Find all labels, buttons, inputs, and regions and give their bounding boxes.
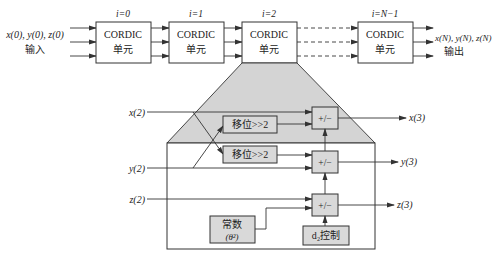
shift-2-label: 移位>>2	[232, 148, 268, 160]
input-x2-label: x(2)	[128, 107, 146, 119]
cordic-stage-1: i=1 CORDIC 单元	[169, 9, 224, 63]
input-label: x(0), y(0), z(0)	[5, 29, 64, 41]
stage-subtitle: 单元	[113, 44, 133, 55]
output-z3-label: z(3)	[396, 199, 413, 211]
output-arrows	[413, 28, 433, 56]
cordic-stage-0: i=0 CORDIC 单元	[96, 9, 151, 63]
stage-title: CORDIC	[177, 29, 215, 40]
cordic-stage-n-minus-1: i=N−1 CORDIC 单元	[358, 9, 413, 63]
stage-index-label: i=0	[116, 9, 130, 19]
output-caption: 输出	[444, 45, 464, 57]
input-arrows	[70, 28, 96, 56]
shift-1-label: 移位>>2	[232, 118, 268, 130]
cordic-stage-2: i=2 CORDIC 单元	[242, 9, 297, 63]
shift-box-1: 移位>>2	[223, 116, 277, 133]
stage-index-label: i=1	[189, 9, 203, 19]
stage-0-to-1-arrows	[151, 28, 169, 56]
stage-2-to-n-dashed-arrows	[297, 28, 358, 56]
d2-control-label: d₂控制	[312, 229, 341, 241]
stage-title: CORDIC	[104, 29, 142, 40]
constant-box: 常数 (θ²)	[210, 216, 255, 243]
stage-subtitle: 单元	[186, 44, 206, 55]
input-z2-label: z(2)	[128, 194, 145, 206]
stage-subtitle: 单元	[375, 44, 395, 55]
addsub-x: +/−	[312, 107, 338, 129]
stage-index-label: i=N−1	[372, 9, 399, 19]
addsub-y-label: +/−	[318, 158, 331, 168]
d2-control-box: d₂控制	[303, 226, 349, 245]
addsub-z-label: +/−	[318, 201, 331, 211]
cordic-pipeline-diagram: x(0), y(0), z(0) 输入 i=0 CORDIC 单元 i=1 CO…	[0, 0, 503, 259]
input-y2-label: y(2)	[128, 163, 146, 175]
stage-title: CORDIC	[366, 29, 404, 40]
input-caption: 输入	[25, 43, 45, 55]
constant-theta-label: (θ²)	[225, 232, 238, 242]
stage-title: CORDIC	[250, 29, 288, 40]
addsub-y: +/−	[312, 151, 338, 173]
constant-label: 常数	[222, 218, 242, 230]
stage-1-to-2-arrows	[224, 28, 242, 56]
shift-box-2: 移位>>2	[223, 146, 277, 163]
output-x3-label: x(3)	[408, 112, 426, 124]
addsub-z: +/−	[312, 194, 338, 216]
output-label: x(N), y(N), z(N)	[434, 33, 491, 43]
stage-subtitle: 单元	[259, 44, 279, 55]
addsub-x-label: +/−	[318, 114, 331, 124]
output-y3-label: y(3)	[400, 156, 418, 168]
stage-index-label: i=2	[262, 9, 276, 19]
